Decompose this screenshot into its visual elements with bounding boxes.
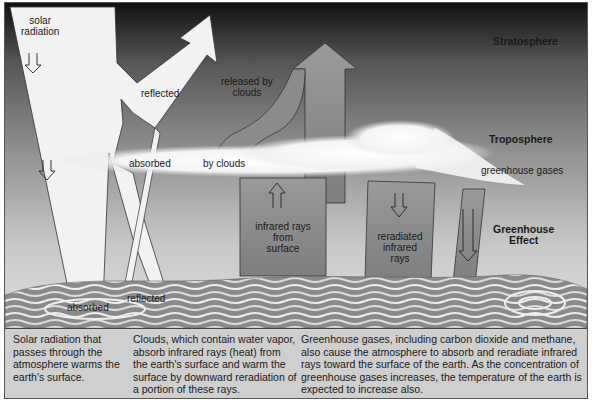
absorbed-clouds-label: absorbed: [129, 158, 171, 169]
caption-greenhouse-gases: Greenhouse gases, including carbon dioxi…: [297, 329, 587, 399]
label-line: released by: [221, 76, 273, 87]
label-line: surface: [245, 243, 321, 254]
caption-clouds: Clouds, which contain water vapor, absor…: [129, 329, 297, 399]
greenhouse-scene: solar radiation reflected released by cl…: [5, 3, 587, 328]
absorbed-ground-label: absorbed: [67, 302, 109, 313]
label-line: Effect: [493, 235, 554, 246]
label-line: rays: [371, 253, 429, 264]
troposphere-label: Troposphere: [489, 134, 553, 145]
reflected-top-label: reflected: [141, 88, 179, 99]
diagram-frame: solar radiation reflected released by cl…: [4, 2, 588, 399]
label-line: reradiated: [371, 231, 429, 242]
reflected-ground-label: reflected: [127, 293, 165, 304]
label-line: infrared: [371, 242, 429, 253]
reradiated-rays-label: reradiated infrared rays: [371, 231, 429, 264]
stratosphere-label: Stratosphere: [493, 36, 558, 47]
label-line: clouds: [221, 87, 273, 98]
released-by-clouds-label: released by clouds: [221, 76, 273, 98]
infrared-rays-label: infrared rays from surface: [245, 221, 321, 254]
caption-solar: Solar radiation that passes through the …: [5, 329, 129, 399]
label-line: solar: [21, 15, 59, 26]
by-clouds-label: by clouds: [203, 158, 245, 169]
solar-radiation-label: solar radiation: [21, 15, 59, 37]
greenhouse-gases-label: greenhouse gases: [481, 165, 563, 176]
caption-panel: Solar radiation that passes through the …: [5, 328, 587, 399]
label-line: infrared rays: [245, 221, 321, 232]
greenhouse-effect-label: Greenhouse Effect: [493, 224, 554, 246]
label-line: from: [245, 232, 321, 243]
label-line: radiation: [21, 26, 59, 37]
